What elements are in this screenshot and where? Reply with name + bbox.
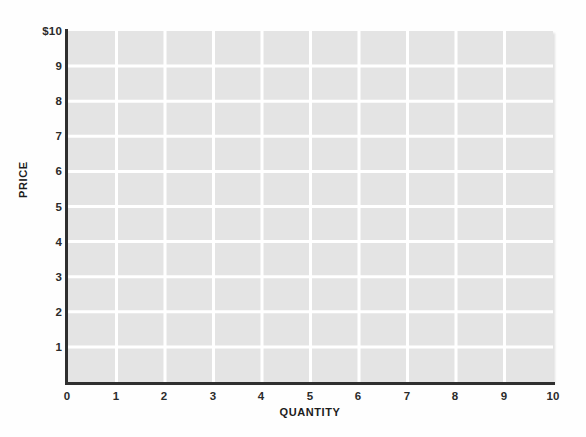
- y-axis-title: PRICE: [17, 178, 29, 198]
- plot-area: [68, 31, 553, 382]
- x-axis-title: QUANTITY: [0, 406, 586, 418]
- y-tick-label-2: 2: [2, 306, 62, 318]
- x-axis-title-text: QUANTITY: [279, 406, 340, 418]
- x-tick-label-1: 1: [96, 390, 136, 403]
- y-tick-label-7: 7: [2, 130, 62, 142]
- x-tick-label-7: 7: [387, 390, 427, 403]
- y-axis-tick-labels: $10 9 8 7 6 5 4 3 2 1: [0, 0, 62, 437]
- x-tick-label-3: 3: [193, 390, 233, 403]
- x-tick-label-4: 4: [241, 390, 281, 403]
- y-tick-label-8: 8: [2, 95, 62, 107]
- grid-lines: [68, 31, 553, 382]
- y-tick-label-9: 9: [2, 60, 62, 72]
- x-tick-label-0: 0: [47, 390, 87, 403]
- y-tick-label-3: 3: [2, 271, 62, 283]
- y-tick-label-5: 5: [2, 201, 62, 213]
- y-tick-label-1: 1: [2, 341, 62, 353]
- x-tick-label-9: 9: [484, 390, 524, 403]
- x-tick-label-2: 2: [144, 390, 184, 403]
- x-axis-line: [65, 382, 555, 385]
- x-tick-label-5: 5: [290, 390, 330, 403]
- x-tick-label-6: 6: [338, 390, 378, 403]
- y-tick-label-10: $10: [2, 25, 62, 37]
- y-axis-line: [65, 29, 68, 385]
- y-tick-label-6: 6: [2, 165, 62, 177]
- chart-root: $10 9 8 7 6 5 4 3 2 1 0 1 2 3 4 5 6 7 8 …: [0, 0, 586, 437]
- y-tick-label-4: 4: [2, 236, 62, 248]
- x-tick-label-8: 8: [435, 390, 475, 403]
- x-tick-label-10: 10: [533, 390, 573, 403]
